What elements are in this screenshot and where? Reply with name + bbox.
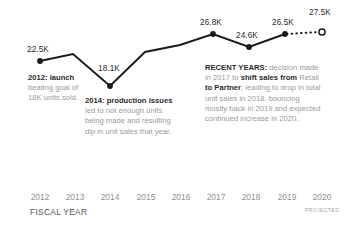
data-point-2019	[282, 31, 288, 37]
x-tick-2019: 2019	[278, 192, 297, 202]
x-tick-2018: 2018	[242, 192, 261, 202]
annotation-2014-line2: being made and resulting	[85, 116, 171, 125]
annotation-recent-t5: unit sales in 2018, bouncing	[205, 94, 300, 103]
annotation-2014: 2014: production issues led to not enoug…	[85, 96, 205, 137]
annotation-recent-b2: to Partner	[205, 83, 241, 92]
annotation-2014-line1: led to not enough units	[85, 106, 162, 115]
x-tick-2020: 2020	[313, 192, 332, 202]
annotation-recent-b1: shift sales from	[241, 73, 297, 82]
line-chart: 22.5K 18.1K 26.8K 24.6K 26.5K 27.5K 2012…	[0, 0, 361, 227]
x-tick-2012: 2012	[31, 192, 50, 202]
projected-note: PROJECTED	[305, 207, 340, 213]
x-tick-2017: 2017	[207, 192, 226, 202]
data-point-2017	[210, 31, 216, 37]
annotation-2014-lead: 2014: production issues	[85, 96, 172, 105]
data-label-2014: 18.1K	[98, 64, 120, 73]
annotation-recent-t6: mostly back in 2019 and expected	[205, 104, 320, 113]
annotation-recent-t3: Retail	[297, 73, 319, 82]
annotation-recent-lead: RECENT YEARS:	[205, 63, 267, 72]
data-label-2017: 26.8K	[200, 18, 222, 27]
data-point-2018	[246, 44, 252, 50]
annotation-recent-t7: continued increase in 2020.	[205, 114, 298, 123]
annotation-recent-t2: in 2017 to	[205, 73, 241, 82]
annotation-2012-line2: 18K units sold.	[28, 93, 78, 102]
data-label-2018: 24.6K	[236, 31, 258, 40]
x-tick-2016: 2016	[172, 192, 191, 202]
x-tick-2014: 2014	[101, 192, 120, 202]
annotation-recent-t1: decision made	[267, 63, 318, 72]
annotation-2014-line3: dip in unit sales that year.	[85, 127, 171, 136]
annotation-2012-line1: beating goal of	[28, 83, 78, 92]
annotation-2012-lead: 2012: launch	[28, 73, 74, 82]
annotation-recent-years: RECENT YEARS: decision made in 2017 to s…	[205, 63, 357, 124]
data-label-2019: 26.5K	[272, 18, 294, 27]
data-label-2020: 27.5K	[309, 8, 331, 17]
x-tick-2015: 2015	[137, 192, 156, 202]
x-axis-title: FISCAL YEAR	[30, 207, 87, 217]
annotation-recent-t4: , leading to drop in total	[241, 83, 320, 92]
x-axis: 2012 2013 2014 2015 2016 2017 2018 2019 …	[0, 192, 361, 206]
x-tick-2013: 2013	[66, 192, 85, 202]
data-point-2020-projected	[319, 29, 325, 35]
data-label-2012: 22.5K	[27, 45, 49, 54]
sales-line-projected	[287, 32, 318, 34]
data-point-2012	[37, 58, 43, 64]
